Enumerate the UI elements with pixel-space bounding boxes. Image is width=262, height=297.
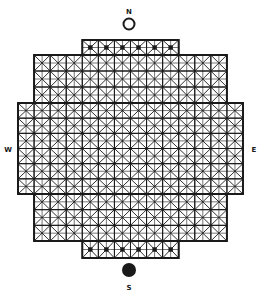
grid-cell	[147, 241, 163, 258]
grid-cell	[66, 164, 82, 179]
grid-cell	[34, 87, 50, 103]
grid-cell	[50, 87, 66, 103]
grid-cell	[163, 87, 179, 103]
west-label: W	[4, 146, 12, 154]
grid-cell	[163, 40, 179, 55]
grid-cell	[211, 87, 227, 103]
center-dot-icon	[120, 247, 124, 251]
grid-cell	[179, 87, 195, 103]
grid-cell	[195, 164, 211, 179]
grid-cell	[147, 40, 163, 55]
grid-cell	[195, 149, 211, 164]
grid-cell	[227, 133, 243, 148]
grid-cell	[98, 71, 114, 87]
grid-cell	[211, 133, 227, 148]
grid-cell	[34, 164, 50, 179]
center-dot-icon	[152, 45, 156, 49]
center-dot-icon	[168, 247, 172, 251]
grid-cell	[130, 55, 146, 71]
grid-cell	[147, 103, 163, 118]
grid-cell	[114, 118, 130, 133]
grid-cell	[34, 210, 50, 226]
grid-cell	[82, 225, 98, 241]
grid-cell	[114, 194, 130, 210]
grid-cell	[50, 71, 66, 87]
grid-cell	[147, 164, 163, 179]
grid-cell	[98, 194, 114, 210]
grid-cell	[163, 103, 179, 118]
grid-cell	[179, 71, 195, 87]
grid-cell	[98, 103, 114, 118]
center-dot-icon	[136, 45, 140, 49]
grid-cell	[130, 241, 146, 258]
grid-cell	[147, 179, 163, 194]
grid-cell	[179, 118, 195, 133]
grid-cell	[66, 210, 82, 226]
east-label: E	[252, 146, 257, 154]
grid-cell	[114, 225, 130, 241]
grid-cell	[211, 55, 227, 71]
grid-cell	[147, 225, 163, 241]
grid-cell	[50, 133, 66, 148]
grid-cell	[130, 194, 146, 210]
grid-cell	[18, 103, 34, 118]
grid-cell	[163, 149, 179, 164]
center-dot-icon	[104, 45, 108, 49]
grid-cell	[114, 179, 130, 194]
north-label: N	[126, 8, 132, 16]
grid-cell	[227, 118, 243, 133]
grid-cell	[195, 194, 211, 210]
grid-cell	[98, 179, 114, 194]
grid-cell	[34, 55, 50, 71]
grid-cell	[50, 225, 66, 241]
grid-cell	[195, 210, 211, 226]
grid-cell	[195, 103, 211, 118]
grid-cell	[163, 210, 179, 226]
grid-cell	[50, 194, 66, 210]
grid-cell	[34, 179, 50, 194]
grid-cell	[163, 241, 179, 258]
grid-cell	[66, 118, 82, 133]
grid-cell	[195, 225, 211, 241]
grid-cell	[179, 103, 195, 118]
grid-cell	[163, 194, 179, 210]
grid-cell	[114, 164, 130, 179]
grid-cell	[130, 210, 146, 226]
grid-cell	[50, 103, 66, 118]
grid-cell	[130, 87, 146, 103]
grid-cell	[50, 179, 66, 194]
grid-cell	[227, 149, 243, 164]
grid-cell	[82, 164, 98, 179]
grid-cell	[82, 118, 98, 133]
grid-cell	[211, 118, 227, 133]
grid-cell	[50, 149, 66, 164]
grid-cell	[227, 103, 243, 118]
grid-cell	[211, 225, 227, 241]
center-dot-icon	[120, 45, 124, 49]
grid-cell	[130, 179, 146, 194]
grid-cell	[179, 133, 195, 148]
grid-cell	[98, 133, 114, 148]
grid-cell	[66, 71, 82, 87]
grid-cell	[163, 179, 179, 194]
grid-cell	[130, 149, 146, 164]
grid-cell	[211, 194, 227, 210]
grid-cell	[163, 71, 179, 87]
grid-cell	[98, 225, 114, 241]
grid-cell	[147, 118, 163, 133]
grid-cell	[195, 87, 211, 103]
grid-cell	[130, 103, 146, 118]
grid-cell	[114, 133, 130, 148]
grid-cell	[211, 103, 227, 118]
grid-cell	[130, 133, 146, 148]
grid-cell	[114, 40, 130, 55]
grid-cell	[34, 149, 50, 164]
grid-cell	[114, 71, 130, 87]
grid-cell	[82, 55, 98, 71]
grid-cell	[163, 133, 179, 148]
grid-cell	[163, 118, 179, 133]
grid-cell	[50, 55, 66, 71]
south-label: S	[126, 284, 131, 292]
grid-cell	[163, 225, 179, 241]
grid-cell	[50, 118, 66, 133]
